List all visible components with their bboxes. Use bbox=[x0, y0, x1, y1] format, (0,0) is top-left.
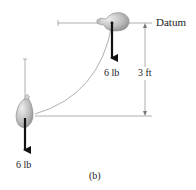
figure-caption: (b) bbox=[89, 171, 101, 181]
left-vertical-line bbox=[23, 59, 27, 100]
bottom-weight-label: 6 lb bbox=[16, 160, 31, 170]
diagram-canvas: Datum 6 lb 3 ft 6 lb (b) bbox=[0, 0, 196, 190]
datum-label: Datum bbox=[156, 17, 186, 28]
top-weight-label: 6 lb bbox=[104, 68, 119, 78]
height-label: 3 ft bbox=[137, 68, 153, 78]
swing-path-curve bbox=[35, 24, 112, 114]
